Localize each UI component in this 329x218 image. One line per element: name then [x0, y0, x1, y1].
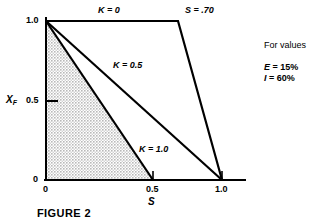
figure-container: 1.0 0.5 0 0 0.5 1.0 XF S K = 0 K = 0.5 K… — [0, 0, 329, 218]
x-tick-label-0point5: 0.5 — [146, 185, 159, 194]
note-row-i: I = 60% — [264, 74, 295, 83]
curve-label-k-1point0-text: K = 1.0 — [139, 144, 168, 154]
curve-label-k-0: K = 0 — [98, 6, 120, 15]
note-row-e-value: = 15% — [273, 62, 299, 72]
figure-caption: FIGURE 2 — [37, 208, 91, 218]
plot-canvas — [0, 0, 329, 218]
curve-label-s-0point70: S = .70 — [185, 6, 214, 15]
note-row-e-symbol: E — [264, 62, 270, 72]
curve-label-k-1point0: K = 1.0 — [139, 145, 168, 154]
curve-label-k-0point5: K = 0.5 — [113, 61, 142, 70]
x-tick-label-0: 0 — [43, 185, 48, 194]
y-axis-label-base: X — [6, 94, 13, 105]
curve-label-k-0-text: K = 0 — [98, 5, 120, 15]
y-tick-label-1point0: 1.0 — [26, 16, 39, 25]
curve-label-s-0point70-text: S = .70 — [185, 5, 214, 15]
y-tick-label-0: 0 — [33, 175, 38, 184]
note-heading: For values — [264, 41, 306, 50]
note-row-e: E = 15% — [264, 63, 298, 72]
y-axis-label-subscript: F — [13, 99, 17, 106]
x-tick-label-1point0: 1.0 — [215, 185, 228, 194]
note-row-i-symbol: I — [264, 73, 267, 83]
y-tick-label-0point5: 0.5 — [26, 96, 39, 105]
note-row-i-value: = 60% — [269, 73, 295, 83]
y-axis-label: XF — [6, 95, 17, 106]
curve-label-k-0point5-text: K = 0.5 — [113, 60, 142, 70]
x-axis-label: S — [148, 197, 155, 207]
